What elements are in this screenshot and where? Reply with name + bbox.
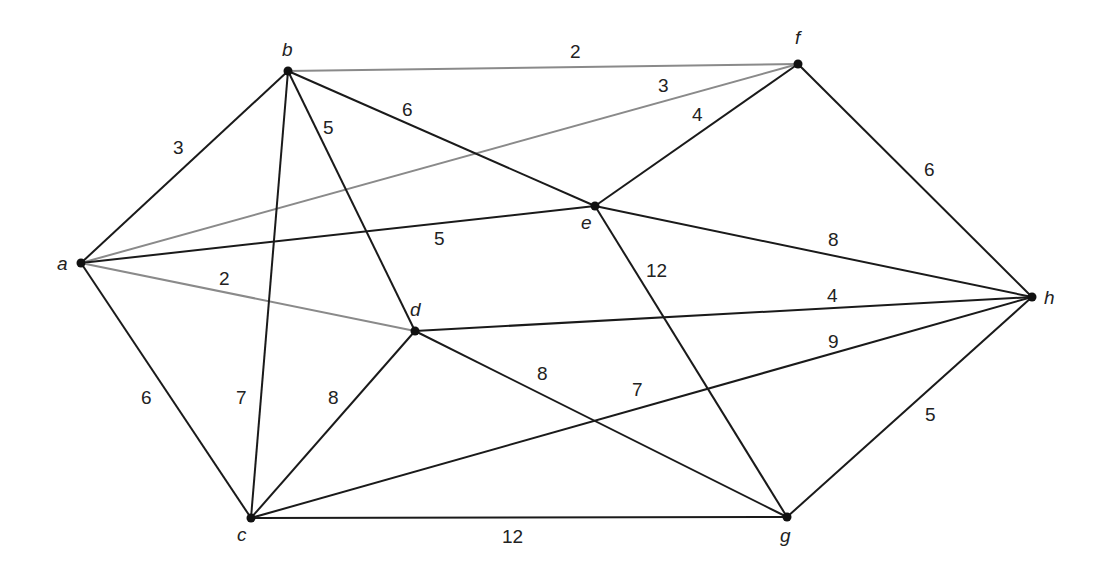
edge-weight-a-f: 3 xyxy=(658,75,669,96)
node-label-b: b xyxy=(282,39,293,60)
node-label-a: a xyxy=(57,253,68,274)
edge-b-f xyxy=(288,64,798,71)
edge-a-e xyxy=(81,206,595,263)
edges-layer xyxy=(81,64,1032,518)
node-label-d: d xyxy=(410,299,422,320)
edge-weight-g-h: 5 xyxy=(925,404,936,425)
edge-weight-b-d: 5 xyxy=(323,117,334,138)
node-h xyxy=(1028,293,1037,302)
edge-b-c xyxy=(251,71,288,518)
edge-weight-a-d: 2 xyxy=(219,268,230,289)
node-label-e: e xyxy=(581,212,592,233)
edge-labels-layer: 3352626574681248891257 xyxy=(141,41,936,547)
edge-c-g xyxy=(251,517,787,518)
edge-weight-a-b: 3 xyxy=(173,137,184,158)
edge-d-c xyxy=(251,331,415,518)
edge-weight-c-g: 12 xyxy=(502,526,523,547)
edge-e-g xyxy=(595,206,787,517)
edge-weight-extra: 7 xyxy=(632,379,643,400)
node-d xyxy=(411,327,420,336)
edge-d-g xyxy=(415,331,787,517)
edge-weight-e-h: 8 xyxy=(828,229,839,250)
node-f xyxy=(794,60,803,69)
edge-a-c xyxy=(81,263,251,518)
edge-f-h xyxy=(798,64,1032,297)
edge-g-h xyxy=(787,297,1032,517)
edge-d-h xyxy=(415,297,1032,331)
edge-weight-e-g: 12 xyxy=(646,260,667,281)
edge-c-h xyxy=(251,297,1032,518)
node-b xyxy=(284,67,293,76)
edge-f-e xyxy=(595,64,798,206)
edge-weight-f-e: 4 xyxy=(692,104,703,125)
node-label-g: g xyxy=(780,525,791,546)
edge-weight-c-h: 9 xyxy=(828,331,839,352)
edge-weight-b-f: 2 xyxy=(570,41,581,62)
node-labels-layer: abcdefgh xyxy=(57,27,1055,546)
node-e xyxy=(591,202,600,211)
node-c xyxy=(247,514,256,523)
edge-b-e xyxy=(288,71,595,206)
node-label-f: f xyxy=(795,27,802,48)
edge-weight-d-c: 8 xyxy=(328,387,339,408)
edge-e-h xyxy=(595,206,1032,297)
node-a xyxy=(77,259,86,268)
node-g xyxy=(783,513,792,522)
edge-weight-b-c: 7 xyxy=(236,387,247,408)
edge-a-d xyxy=(81,263,415,331)
edge-weight-d-h: 4 xyxy=(827,285,838,306)
edge-weight-a-e: 5 xyxy=(434,228,445,249)
edge-weight-d-g: 8 xyxy=(537,363,548,384)
edge-weight-a-c: 6 xyxy=(141,387,152,408)
node-label-c: c xyxy=(237,524,247,545)
edge-weight-f-h: 6 xyxy=(924,159,935,180)
node-label-h: h xyxy=(1044,287,1055,308)
graph-diagram: 3352626574681248891257 abcdefgh xyxy=(0,0,1112,579)
edge-weight-b-e: 6 xyxy=(402,99,413,120)
